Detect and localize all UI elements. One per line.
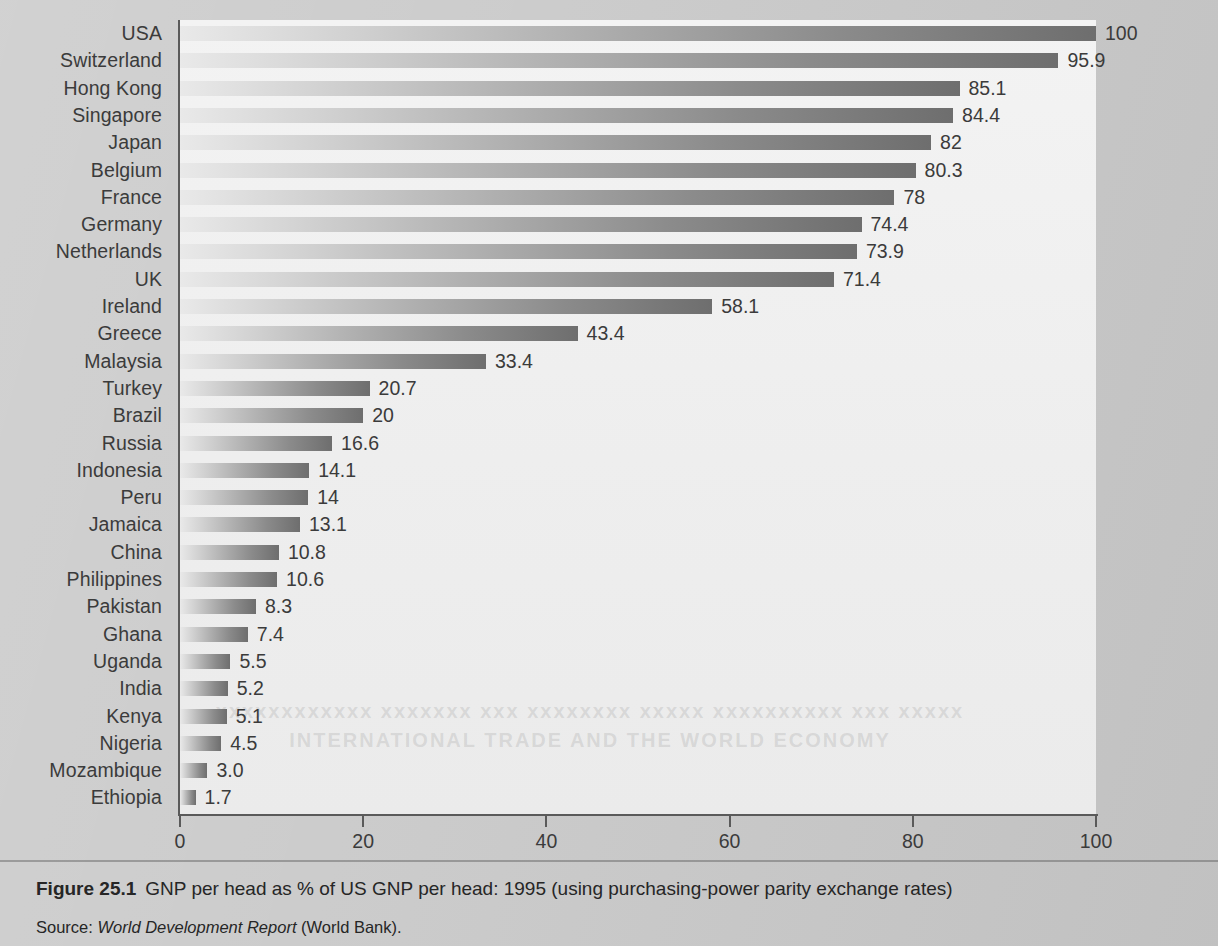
x-tick-mark — [179, 816, 181, 827]
bar-value-label: 3.0 — [216, 760, 243, 781]
bar — [180, 272, 834, 287]
bar-container: 14.1 — [180, 463, 309, 478]
x-tick-mark — [912, 816, 914, 827]
category-label: Germany — [81, 211, 162, 238]
x-tick-label: 40 — [536, 830, 558, 853]
bar — [180, 517, 300, 532]
category-label: Turkey — [103, 375, 162, 402]
category-label: USA — [122, 20, 162, 47]
figure-chart: xxxxxxxxxxxx xxxxxxx xxx xxxxxxxx xxxxx … — [0, 0, 1218, 860]
bar — [180, 790, 196, 805]
x-tick-mark — [362, 816, 364, 827]
x-tick-mark — [545, 816, 547, 827]
bar — [180, 763, 207, 778]
bar — [180, 299, 712, 314]
bar-container: 8.3 — [180, 599, 256, 614]
bar — [180, 26, 1096, 41]
bar-container: 10.6 — [180, 572, 277, 587]
bar — [180, 381, 370, 396]
bar-value-label: 5.1 — [236, 706, 263, 727]
bar-value-label: 100 — [1105, 23, 1138, 44]
bar — [180, 463, 309, 478]
bar — [180, 326, 578, 341]
bar-container: 16.6 — [180, 436, 332, 451]
bar-value-label: 10.6 — [286, 569, 324, 590]
bar — [180, 53, 1058, 68]
bar — [180, 244, 857, 259]
category-label: Japan — [108, 129, 162, 156]
bar — [180, 736, 221, 751]
bar — [180, 354, 486, 369]
figure-caption-text: GNP per head as % of US GNP per head: 19… — [145, 878, 952, 899]
category-label: Hong Kong — [64, 75, 162, 102]
bar-value-label: 20 — [372, 405, 394, 426]
category-label: Philippines — [67, 566, 162, 593]
bar-value-label: 16.6 — [341, 433, 379, 454]
bar-value-label: 14.1 — [318, 460, 356, 481]
bar-value-label: 80.3 — [925, 160, 963, 181]
bar — [180, 654, 230, 669]
category-label: Jamaica — [89, 511, 162, 538]
category-label: Ghana — [103, 621, 162, 648]
bar-value-label: 4.5 — [230, 733, 257, 754]
bar-rows: USA100Switzerland95.9Hong Kong85.1Singap… — [0, 20, 1218, 815]
bar-container: 58.1 — [180, 299, 712, 314]
bar — [180, 163, 916, 178]
bar-row: Pakistan8.3 — [0, 593, 1218, 620]
bar — [180, 627, 248, 642]
bar-container: 7.4 — [180, 627, 248, 642]
bar — [180, 572, 277, 587]
bar — [180, 108, 953, 123]
x-tick-label: 0 — [175, 830, 186, 853]
bar-row: UK71.4 — [0, 266, 1218, 293]
bar-container: 74.4 — [180, 217, 862, 232]
bar-container: 1.7 — [180, 790, 196, 805]
bar-container: 20.7 — [180, 381, 370, 396]
category-label: Mozambique — [49, 757, 162, 784]
category-label: UK — [135, 266, 162, 293]
bar-value-label: 95.9 — [1067, 50, 1105, 71]
bar-container: 3.0 — [180, 763, 207, 778]
bar-value-label: 85.1 — [969, 78, 1007, 99]
category-label: Netherlands — [56, 238, 162, 265]
figure-caption: Figure 25.1GNP per head as % of US GNP p… — [36, 878, 953, 900]
bar-value-label: 78 — [903, 187, 925, 208]
category-label: Brazil — [113, 402, 162, 429]
x-axis-ticks: 020406080100 — [0, 816, 1218, 860]
bar-container: 43.4 — [180, 326, 578, 341]
bar — [180, 135, 931, 150]
bar-row: Peru14 — [0, 484, 1218, 511]
category-label: Uganda — [93, 648, 162, 675]
bar-value-label: 10.8 — [288, 542, 326, 563]
bar-value-label: 13.1 — [309, 514, 347, 535]
category-label: Belgium — [91, 157, 162, 184]
bar-row: Germany74.4 — [0, 211, 1218, 238]
bar-container: 5.5 — [180, 654, 230, 669]
bar-row: Uganda5.5 — [0, 648, 1218, 675]
bar-row: Ethiopia1.7 — [0, 784, 1218, 811]
bar-value-label: 8.3 — [265, 596, 292, 617]
bar-row: USA100 — [0, 20, 1218, 47]
bar-row: Indonesia14.1 — [0, 457, 1218, 484]
bar-row: Hong Kong85.1 — [0, 75, 1218, 102]
bar — [180, 709, 227, 724]
category-label: Ethiopia — [91, 784, 162, 811]
category-label: Pakistan — [86, 593, 162, 620]
bar-row: Jamaica13.1 — [0, 511, 1218, 538]
bar-value-label: 7.4 — [257, 624, 284, 645]
bar-row: Kenya5.1 — [0, 703, 1218, 730]
bar-row: Ireland58.1 — [0, 293, 1218, 320]
bar-container: 84.4 — [180, 108, 953, 123]
figure-source: Source: World Development Report (World … — [36, 918, 402, 937]
category-label: Greece — [97, 320, 162, 347]
x-tick-mark — [1095, 816, 1097, 827]
x-tick-label: 20 — [352, 830, 374, 853]
bar-container: 82 — [180, 135, 931, 150]
caption-divider — [0, 860, 1218, 862]
category-label: Malaysia — [84, 348, 162, 375]
bar-container: 5.1 — [180, 709, 227, 724]
bar-container: 78 — [180, 190, 894, 205]
bar-row: India5.2 — [0, 675, 1218, 702]
bar — [180, 681, 228, 696]
category-label: France — [101, 184, 162, 211]
